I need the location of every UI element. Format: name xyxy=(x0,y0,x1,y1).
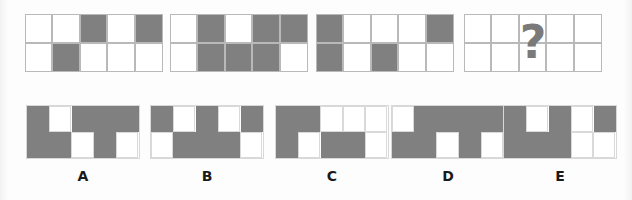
cell-r2-c2 xyxy=(298,132,320,158)
cell-r2-c1 xyxy=(276,132,298,158)
cell-r2-c4 xyxy=(218,132,240,158)
cell-r2-c1 xyxy=(170,43,198,72)
cell-r2-c3 xyxy=(71,132,93,158)
cell-r1-c1 xyxy=(276,106,298,132)
cell-r2-c5 xyxy=(426,43,454,72)
cell-r2-c5 xyxy=(481,132,503,158)
cell-r1-c2 xyxy=(173,106,195,132)
cell-r2-c5 xyxy=(116,132,138,158)
option-d-label[interactable]: D xyxy=(428,168,468,184)
option-e-label[interactable]: E xyxy=(540,168,580,184)
cell-r2-c5 xyxy=(240,132,262,158)
cell-r2-c3 xyxy=(321,132,343,158)
cell-r1-c5 xyxy=(482,106,504,132)
cell-r2-c2 xyxy=(197,43,225,72)
cell-r1-c2 xyxy=(197,14,225,43)
cell-r2-c1 xyxy=(504,132,526,158)
cell-r1-c1 xyxy=(464,14,492,43)
cell-r1-c2 xyxy=(49,106,71,132)
question-panel-2 xyxy=(170,14,308,72)
option-b[interactable] xyxy=(151,106,263,158)
cell-r1-c4 xyxy=(571,106,593,132)
cell-r2-c2 xyxy=(343,43,371,72)
option-a-label[interactable]: A xyxy=(63,168,103,184)
cell-r2-c2 xyxy=(49,132,71,158)
cell-r2-c1 xyxy=(25,43,53,72)
cell-r2-c4 xyxy=(571,132,593,158)
cell-r1-c2 xyxy=(414,106,436,132)
cell-r1-c1 xyxy=(316,14,344,43)
cell-r2-c4 xyxy=(107,43,135,72)
cell-r2-c5 xyxy=(574,43,602,72)
cell-r1-c5 xyxy=(426,14,454,43)
cell-r2-c1 xyxy=(151,132,173,158)
cell-r1-c3 xyxy=(72,106,94,132)
cell-r1-c3 xyxy=(225,14,253,43)
cell-r2-c4 xyxy=(459,132,481,158)
cell-r2-c5 xyxy=(280,43,308,72)
cell-r2-c1 xyxy=(392,132,414,158)
cell-r2-c3 xyxy=(436,132,458,158)
cell-r1-c3 xyxy=(549,106,571,132)
cell-r2-c4 xyxy=(252,43,280,72)
cell-r1-c4 xyxy=(218,106,240,132)
cell-r1-c4 xyxy=(252,14,280,43)
cell-r1-c3 xyxy=(196,106,218,132)
option-a[interactable] xyxy=(27,106,139,158)
cell-r1-c3 xyxy=(519,14,547,43)
option-c[interactable] xyxy=(276,106,388,158)
cell-r2-c5 xyxy=(365,132,387,158)
cell-r2-c2 xyxy=(173,132,195,158)
cell-r1-c1 xyxy=(27,106,49,132)
cell-r1-c3 xyxy=(80,14,108,43)
cell-r2-c2 xyxy=(526,132,548,158)
option-d[interactable] xyxy=(392,106,504,158)
cell-r2-c3 xyxy=(225,43,253,72)
cell-r1-c4 xyxy=(398,14,426,43)
cell-r1-c5 xyxy=(280,14,308,43)
cell-r2-c5 xyxy=(135,43,163,72)
cell-r1-c1 xyxy=(151,106,173,132)
cell-r1-c2 xyxy=(52,14,80,43)
cell-r1-c3 xyxy=(320,106,342,132)
cell-r2-c3 xyxy=(549,132,571,158)
cell-r2-c4 xyxy=(94,132,116,158)
cell-r1-c1 xyxy=(504,106,526,132)
cell-r2-c3 xyxy=(80,43,108,72)
question-panel-1 xyxy=(25,14,163,72)
cell-r1-c2 xyxy=(491,14,519,43)
page-edge-shadow-left xyxy=(0,0,8,200)
option-b-label[interactable]: B xyxy=(187,168,227,184)
cell-r1-c1 xyxy=(392,106,414,132)
cell-r1-c2 xyxy=(298,106,320,132)
cell-r2-c4 xyxy=(343,132,365,158)
cell-r1-c2 xyxy=(526,106,548,132)
cell-r1-c4 xyxy=(107,14,135,43)
cell-r1-c3 xyxy=(437,106,459,132)
cell-r2-c2 xyxy=(491,43,519,72)
cell-r1-c4 xyxy=(343,106,365,132)
option-c-label[interactable]: C xyxy=(312,168,352,184)
option-e[interactable] xyxy=(504,106,616,158)
cell-r2-c5 xyxy=(593,132,615,158)
cell-r1-c3 xyxy=(371,14,399,43)
cell-r2-c2 xyxy=(52,43,80,72)
cell-r2-c1 xyxy=(464,43,492,72)
cell-r2-c3 xyxy=(196,132,218,158)
cell-r1-c5 xyxy=(135,14,163,43)
cell-r1-c2 xyxy=(343,14,371,43)
cell-r1-c5 xyxy=(574,14,602,43)
cell-r1-c5 xyxy=(241,106,263,132)
cell-r1-c4 xyxy=(459,106,481,132)
cell-r1-c5 xyxy=(594,106,616,132)
cell-r1-c4 xyxy=(94,106,116,132)
cell-r2-c2 xyxy=(414,132,436,158)
question-panel-4-unknown: ? xyxy=(464,14,602,72)
cell-r2-c4 xyxy=(398,43,426,72)
cell-r2-c4 xyxy=(546,43,574,72)
cell-r1-c5 xyxy=(365,106,387,132)
cell-r1-c1 xyxy=(170,14,198,43)
cell-r2-c1 xyxy=(316,43,344,72)
cell-r2-c1 xyxy=(27,132,49,158)
question-panel-3 xyxy=(316,14,454,72)
